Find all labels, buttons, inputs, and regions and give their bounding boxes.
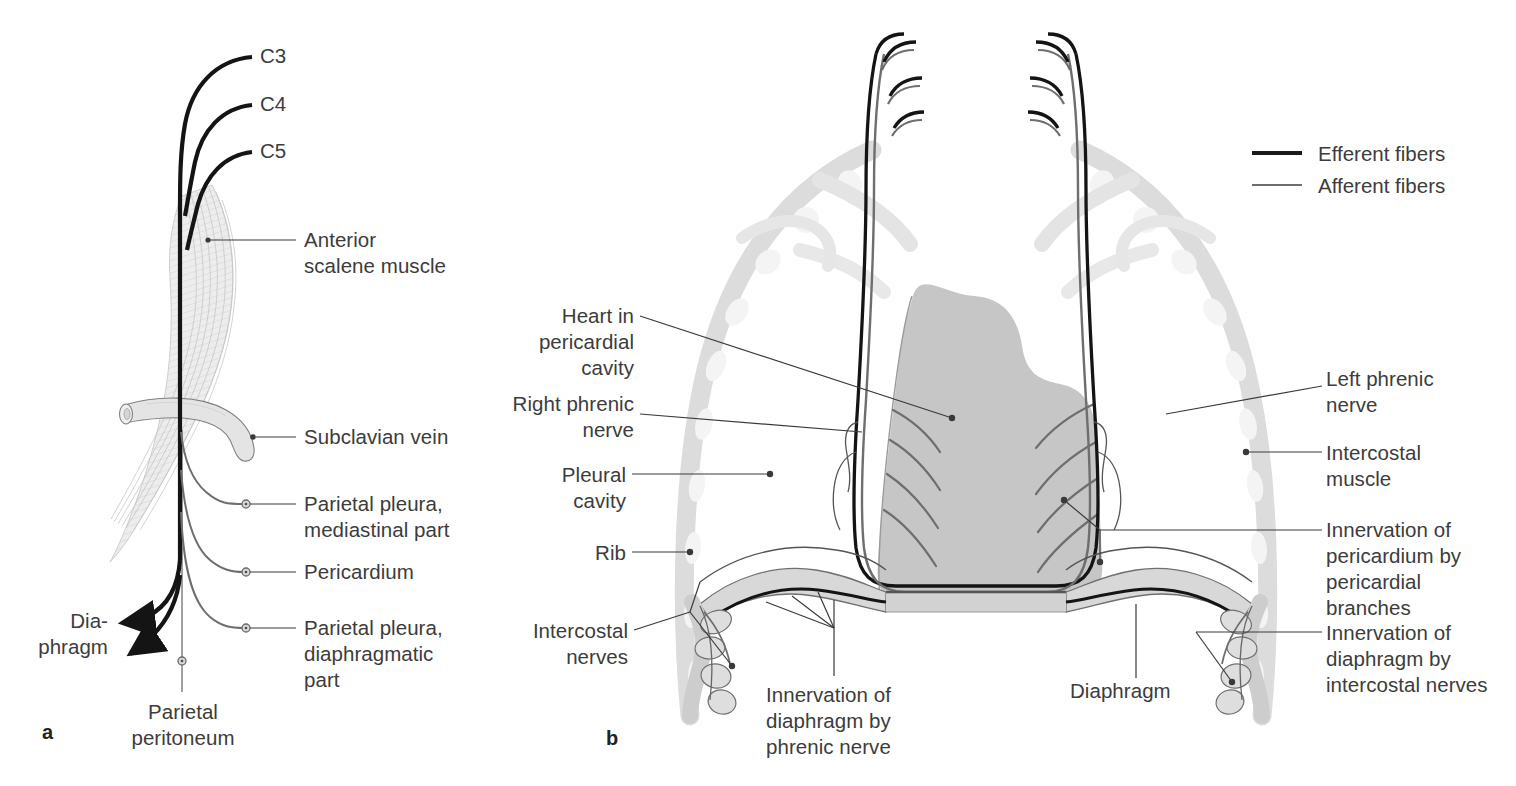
costodiaphragmatic-recess-left xyxy=(690,602,739,717)
label-innervation-of-pericardium: Innervation of pericardium by pericardia… xyxy=(1326,517,1461,621)
intercostal-nerve-fibers xyxy=(704,612,1248,664)
label-parietal-peritoneum: Parietal peritoneum xyxy=(100,699,266,751)
panel-letter-a: a xyxy=(42,721,53,744)
label-left-phrenic-nerve: Left phrenic nerve xyxy=(1326,366,1434,418)
heart-in-pericardial-cavity-shape xyxy=(878,284,1103,600)
label-innervation-diaphragm-by-phrenic-nerve: Innervation of diaphragm by phrenic nerv… xyxy=(766,682,891,760)
root-label-c4: C4 xyxy=(260,91,286,117)
subclavian-vein-leader-dot xyxy=(250,434,256,440)
legend-label-afferent: Afferent fibers xyxy=(1318,173,1445,199)
legend-label-efferent: Efferent fibers xyxy=(1318,141,1445,167)
anterior-scalene-muscle-shape xyxy=(110,185,236,562)
label-innervation-diaphragm-by-intercostal-nerves: Innervation of diaphragm by intercostal … xyxy=(1326,620,1488,698)
root-label-c3: C3 xyxy=(260,43,286,69)
figure-artwork xyxy=(0,0,1516,786)
afferent-branch-endpoints xyxy=(242,500,250,632)
label-intercostal-nerves: Intercostal nerves xyxy=(400,618,628,670)
diaphragm-arrow-group xyxy=(122,560,180,654)
panel-letter-b: b xyxy=(606,727,618,750)
label-diaphragm-panel-a: Dia- phragm xyxy=(0,608,108,660)
label-rib: Rib xyxy=(400,540,626,566)
label-anterior-scalene-muscle: Anterior scalene muscle xyxy=(304,227,446,279)
label-diaphragm-panel-b: Diaphragm xyxy=(1070,678,1171,704)
label-pericardium: Pericardium xyxy=(304,559,414,585)
label-pleural-cavity: Pleural cavity xyxy=(400,462,626,514)
label-right-phrenic-nerve: Right phrenic nerve xyxy=(400,391,634,443)
legend-swatches xyxy=(1252,153,1302,185)
anterior-scalene-leader-dot xyxy=(205,237,210,242)
costodiaphragmatic-recess-right xyxy=(1213,602,1262,717)
afferent-branches-panel-a xyxy=(181,432,244,628)
root-label-c5: C5 xyxy=(260,138,286,164)
panel-b-artwork xyxy=(632,34,1322,717)
label-heart-in-pericardial-cavity: Heart in pericardial cavity xyxy=(400,303,634,381)
anatomy-figure: Efferent fibers Afferent fibers C3 C4 C5… xyxy=(0,0,1516,786)
label-intercostal-muscle: Intercostal muscle xyxy=(1326,440,1421,492)
